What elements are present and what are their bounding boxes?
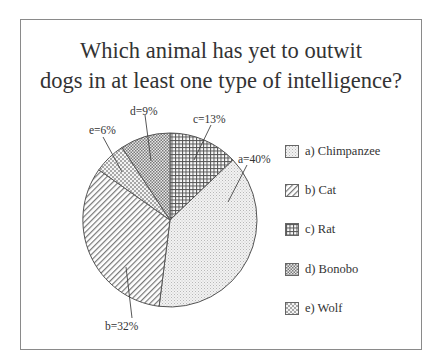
legend-label: a) Chimpanzee <box>305 144 380 159</box>
legend-label: b) Cat <box>305 183 336 198</box>
legend-item-chimpanzee: a) Chimpanzee <box>285 144 380 158</box>
slice-label-a: a=40% <box>238 153 271 165</box>
legend-label: e) Wolf <box>305 301 342 316</box>
legend-item-cat: b) Cat <box>285 183 336 197</box>
swatch-diagonal-hatch-icon <box>285 184 299 197</box>
swatch-dense-checker-icon <box>285 263 299 276</box>
legend-label: c) Rat <box>305 222 335 237</box>
legend-item-wolf: e) Wolf <box>285 301 342 315</box>
legend-item-rat: c) Rat <box>285 222 335 236</box>
slice-label-b: b=32% <box>105 320 138 332</box>
legend-label: d) Bonobo <box>305 262 358 277</box>
swatch-fine-dots-icon <box>285 145 299 158</box>
pie-chart <box>0 0 443 361</box>
swatch-grid-icon <box>285 223 299 236</box>
legend-item-bonobo: d) Bonobo <box>285 262 358 276</box>
slice-label-c: c=13% <box>193 113 226 125</box>
swatch-light-checker-icon <box>285 302 299 315</box>
slice-label-d: d=9% <box>130 105 158 117</box>
slice-label-e: e=6% <box>89 124 116 136</box>
